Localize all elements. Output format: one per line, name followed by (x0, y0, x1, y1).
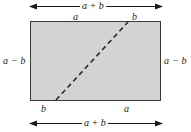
rectangle-shape (30, 21, 161, 101)
bottom-right-segment-label: a (124, 104, 129, 114)
right-side-label: a − b (164, 56, 187, 66)
left-side-label: a − b (3, 56, 26, 66)
bottom-left-segment-label: b (41, 104, 46, 114)
geometry-figure: a + b a b a − b a − b b a a + b (0, 0, 191, 132)
top-total-label: a + b (80, 1, 106, 11)
bottom-total-label: a + b (82, 118, 108, 128)
